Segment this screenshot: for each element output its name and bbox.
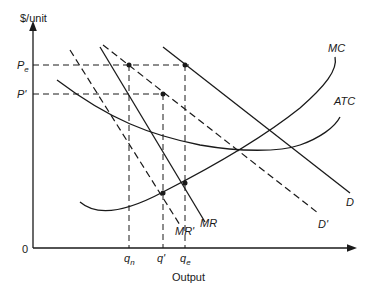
d-label: D [346,196,354,208]
mr-prime-label: MR' [175,225,195,237]
point-qprime-pprime [161,92,166,97]
point-mr-prime-mc [161,191,166,196]
pe-label: Pe [17,59,29,74]
mc-label: MC [328,42,345,54]
qe-label: qe [180,252,191,267]
y-axis-label: $/unit [20,12,47,24]
mr-label: MR [200,217,217,229]
point-qe-pe [183,63,188,68]
qn-label: qn [124,252,135,267]
economics-diagram: $/unit Output 0 Pe P' qn q' qe MC ATC D … [0,0,380,297]
atc-curve [57,80,340,150]
point-mr-mc [183,181,188,186]
q-prime-label: q' [157,252,166,264]
x-axis-label: Output [172,271,205,283]
point-qn-pe [127,63,132,68]
d-prime-label: D' [318,218,329,230]
p-prime-label: P' [17,88,27,100]
d-prime-curve [103,45,318,213]
mr-curve [100,47,205,222]
origin-label: 0 [22,243,28,255]
mc-curve [80,57,335,211]
d-curve [163,47,350,193]
atc-label: ATC [333,95,355,107]
